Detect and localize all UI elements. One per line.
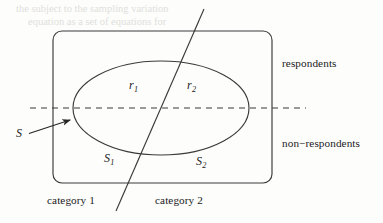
region-label-r1-subscript: 1 bbox=[134, 85, 138, 94]
category-divider-diagonal-line bbox=[116, 9, 204, 211]
region-label-r2: r2 bbox=[187, 78, 196, 93]
region-label-r2-subscript: 2 bbox=[192, 85, 196, 94]
label-category-1: category 1 bbox=[47, 194, 95, 206]
label-non-respondents: non−respondents bbox=[282, 137, 360, 149]
diagram-canvas bbox=[0, 0, 383, 223]
region-label-s1: S1 bbox=[104, 151, 114, 166]
label-respondents: respondents bbox=[282, 57, 337, 69]
region-label-r2-base: r bbox=[187, 78, 192, 92]
figure-page: the subject to the sampling variation eq… bbox=[0, 0, 383, 223]
region-label-s1-subscript: 1 bbox=[110, 158, 114, 167]
region-label-r1: r1 bbox=[129, 78, 138, 93]
region-label-s2: S2 bbox=[196, 154, 206, 169]
sample-label-s: S bbox=[16, 126, 22, 141]
label-category-2: category 2 bbox=[155, 194, 203, 206]
sample-pointer-arrow bbox=[29, 120, 70, 134]
population-rectangle bbox=[53, 31, 272, 183]
region-label-s2-subscript: 2 bbox=[202, 161, 206, 170]
region-label-r1-base: r bbox=[129, 78, 134, 92]
